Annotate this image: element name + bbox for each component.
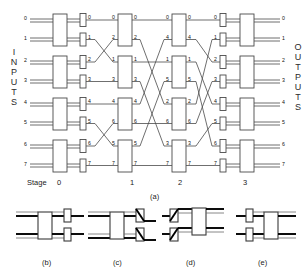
stage2-in-label-6: 3 [166, 140, 169, 146]
panel-e-main-box[interactable] [264, 212, 278, 239]
stage-0-switch-0[interactable] [80, 14, 86, 27]
stage1-out-label-3: 3 [134, 76, 137, 82]
stage-label-0: 0 [57, 178, 61, 187]
stage3-in-label-1: 1 [214, 34, 217, 40]
stage2-out-label-4: 2 [188, 98, 191, 104]
stage-3-switch-7[interactable] [220, 159, 226, 172]
output-port-label-5: 5 [282, 119, 285, 125]
stage-3-switch-4[interactable] [220, 98, 226, 111]
stage-3-box-2[interactable] [240, 98, 254, 130]
stage3-in-label-6: 6 [214, 140, 217, 146]
input-port-label-0: 0 [24, 15, 27, 21]
panel-e-switch-upper[interactable] [246, 209, 253, 222]
stage1-out-label-2: 1 [134, 56, 137, 62]
stage2-in-label-3: 5 [166, 76, 169, 82]
stage-1-box-2[interactable] [118, 98, 132, 130]
stage-2-box-1[interactable] [172, 56, 186, 88]
stage0-out-label-2: 2 [88, 56, 91, 62]
caption-a: (a) [150, 192, 159, 201]
caption-d: (d) [186, 258, 195, 267]
stage-label-3: 3 [243, 178, 247, 187]
stage1-in-label-1: 2 [112, 34, 115, 40]
stage2-out-label-2: 1 [188, 56, 191, 62]
stage0-out-label-5: 5 [88, 118, 91, 124]
panel-c-main-box[interactable] [110, 212, 124, 239]
panel-c-switch-crossed [88, 209, 156, 241]
stage-1-box-0[interactable] [118, 14, 132, 46]
stage-0-switch-7[interactable] [80, 159, 86, 172]
panel-a-network: 0 1 2 3 4 5 6 7 0 1 2 3 4 5 6 7 0 2 1 3 … [24, 14, 285, 173]
input-port-label-3: 3 [24, 77, 27, 83]
stage-3-switch-6[interactable] [220, 140, 226, 153]
stage-2-box-3[interactable] [172, 140, 186, 172]
stage-0-switch-1[interactable] [80, 33, 86, 46]
input-port-numbers: 0 1 2 3 4 5 6 7 [24, 15, 27, 167]
stage-1-box-3[interactable] [118, 140, 132, 172]
stage-0-group [30, 14, 86, 173]
stage-0-box-3[interactable] [53, 140, 67, 172]
stage1-in-label-5: 6 [112, 118, 115, 124]
caption-b: (b) [42, 258, 51, 267]
stage-3-switch-3[interactable] [220, 75, 226, 88]
stage2-in-label-2: 1 [166, 56, 169, 62]
panel-e-switch-lower[interactable] [246, 228, 253, 241]
stage-3-box-0[interactable] [240, 14, 254, 46]
input-port-label-6: 6 [24, 141, 27, 147]
stage0-out-label-6: 6 [88, 140, 91, 146]
stage2-in-label-0: 0 [166, 14, 169, 20]
output-port-label-0: 0 [282, 15, 285, 21]
stage1-out-label-0: 0 [134, 14, 137, 20]
panel-d-main-box[interactable] [192, 208, 206, 235]
stage-3-box-3[interactable] [240, 140, 254, 172]
stage3-in-label-4: 4 [214, 98, 217, 104]
stage2-out-label-1: 4 [188, 34, 191, 40]
stage-0-switch-5[interactable] [80, 117, 86, 130]
stage1-in-label-2: 1 [112, 56, 115, 62]
stage2-in-label-7: 7 [166, 160, 169, 166]
stage-3-switch-0[interactable] [220, 14, 226, 27]
stage1-out-label-5: 6 [134, 118, 137, 124]
stage2-out-label-7: 7 [188, 160, 191, 166]
network-figure: .wire{stroke:#4a4a4a;stroke-width:0.8;fi… [0, 0, 308, 272]
stage1-out-label-6: 5 [134, 140, 137, 146]
panel-b-main-box[interactable] [38, 212, 52, 239]
stage-2-box-2[interactable] [172, 98, 186, 130]
stage-label-2: 2 [178, 178, 182, 187]
stage-2-box-0[interactable] [172, 14, 186, 46]
stage1-in-label-3: 3 [112, 76, 115, 82]
input-port-label-1: 1 [24, 35, 27, 41]
input-port-label-4: 4 [24, 99, 27, 105]
stage-0-switch-4[interactable] [80, 98, 86, 111]
stage2-out-label-3: 5 [188, 76, 191, 82]
output-port-label-1: 1 [282, 35, 285, 41]
stage-0-box-0[interactable] [53, 14, 67, 46]
stage3-in-label-5: 5 [214, 118, 217, 124]
stage0-out-label-1: 1 [88, 34, 91, 40]
panel-b-switch-upper[interactable] [64, 209, 71, 222]
output-port-label-4: 4 [282, 99, 285, 105]
stage-0-switch-3[interactable] [80, 75, 86, 88]
stage-3-switch-1[interactable] [220, 33, 226, 46]
stage1-out-label-4: 4 [134, 98, 137, 104]
stage-label-1: 1 [130, 178, 134, 187]
stage-0-switch-6[interactable] [80, 140, 86, 153]
stage-0-box-1[interactable] [53, 56, 67, 88]
stage-1-box-1[interactable] [118, 56, 132, 88]
stage-3-group [220, 14, 280, 173]
stage0-out-label-0: 0 [88, 14, 91, 20]
stage-2-in-numbers: 0 4 1 5 2 6 3 7 [166, 14, 169, 166]
stage3-in-label-2: 2 [214, 56, 217, 62]
stage-3-switch-5[interactable] [220, 117, 226, 130]
stage-3-switch-2[interactable] [220, 56, 226, 69]
stage-0-switch-2[interactable] [80, 56, 86, 69]
panel-b-switch-lower[interactable] [64, 228, 71, 241]
stage3-in-label-7: 7 [214, 160, 217, 166]
input-port-label-7: 7 [24, 161, 27, 167]
panel-d-switch-crossed-left [162, 208, 224, 241]
inputs-label: INPUTS [5, 47, 19, 107]
stage1-out-label-7: 7 [134, 160, 137, 166]
stage-0-box-2[interactable] [53, 98, 67, 130]
stage3-in-label-3: 3 [214, 76, 217, 82]
stage-3-in-numbers: 0 1 2 3 4 5 6 7 [214, 14, 217, 166]
stage-3-box-1[interactable] [240, 56, 254, 88]
